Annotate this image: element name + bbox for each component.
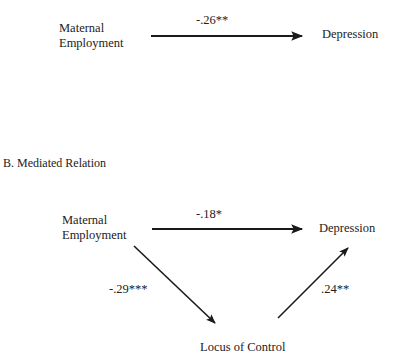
panel-b-a-path-coefficient: -.29*** bbox=[109, 282, 148, 296]
panel-a-coefficient: -.26** bbox=[196, 13, 228, 27]
panel-b-title: B. Mediated Relation bbox=[3, 156, 106, 170]
panel-a-source-line2: Employment bbox=[59, 36, 124, 50]
panel-a-target: Depression bbox=[322, 27, 378, 41]
panel-b-mediator: Locus of Control bbox=[200, 340, 285, 354]
panel-b-target: Depression bbox=[319, 221, 375, 235]
panel-b-source-line1: Maternal bbox=[62, 213, 107, 227]
diagram-arrows bbox=[0, 0, 401, 364]
panel-b-source-line2: Employment bbox=[62, 228, 127, 242]
panel-b-b-path-coefficient: .24** bbox=[321, 282, 349, 296]
panel-a-source-line1: Maternal bbox=[59, 21, 104, 35]
panel-b-direct-coefficient: -.18* bbox=[196, 207, 222, 221]
